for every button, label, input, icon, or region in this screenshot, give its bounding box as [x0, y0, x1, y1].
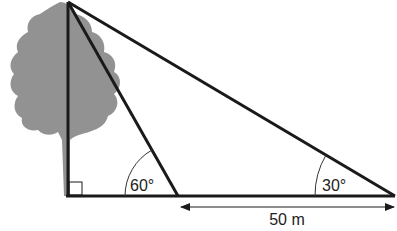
angle-label-30: 30° — [322, 177, 346, 194]
angle-label-60: 60° — [130, 177, 154, 194]
diagram-canvas: 60° 30° 50 m — [0, 0, 397, 231]
right-angle-marker — [69, 182, 82, 195]
tree-icon — [11, 2, 120, 196]
distance-label: 50 m — [269, 211, 305, 228]
sight-line-far — [68, 2, 395, 196]
